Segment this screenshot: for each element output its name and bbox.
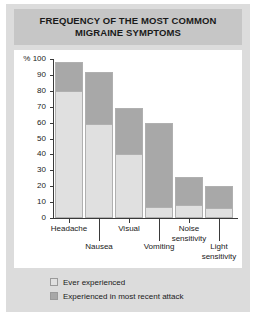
y-axis-tick-mark xyxy=(50,123,53,124)
x-axis-tick-mark xyxy=(189,219,190,223)
bar-segment-most-recent-attack xyxy=(55,62,83,91)
y-axis-tick-mark xyxy=(50,59,53,60)
x-axis-label-line: Visual xyxy=(99,224,159,234)
y-axis-tick-label: 70 xyxy=(37,102,46,112)
x-axis-label-line: Light xyxy=(189,242,249,252)
y-axis-tick-mark xyxy=(50,107,53,108)
y-axis-tick-label: 10 xyxy=(37,197,46,207)
bar-segment-ever-experienced xyxy=(85,124,113,218)
chart-legend: Ever experiencedExperienced in most rece… xyxy=(50,276,184,304)
y-axis-tick-mark xyxy=(50,202,53,203)
y-axis-tick-mark xyxy=(50,75,53,76)
bar-vomiting[interactable] xyxy=(145,123,173,218)
x-axis-tick-mark xyxy=(99,219,100,241)
x-axis-label-headache: Headache xyxy=(39,224,99,234)
legend-swatch-icon xyxy=(50,278,58,286)
x-axis-tick-mark xyxy=(219,219,220,241)
bar-noise-sensitivity[interactable] xyxy=(175,177,203,218)
x-axis-tick-mark xyxy=(159,219,160,241)
bar-segment-most-recent-attack xyxy=(175,177,203,206)
title-line-2: MIGRAINE SYMPTOMS xyxy=(40,27,217,40)
bar-visual[interactable] xyxy=(115,108,143,218)
x-axis-label-line: Noise xyxy=(159,224,219,234)
x-axis-label-noise: Noisesensitivity xyxy=(159,224,219,243)
legend-swatch-icon xyxy=(50,292,58,300)
bar-segment-most-recent-attack xyxy=(205,186,233,208)
y-axis-tick-label: 50 xyxy=(37,134,46,144)
chart-figure: FREQUENCY OF THE MOST COMMON MIGRAINE SY… xyxy=(6,4,250,312)
bar-headache[interactable] xyxy=(55,62,83,218)
bar-segment-most-recent-attack xyxy=(115,108,143,154)
bar-segment-ever-experienced xyxy=(145,207,173,218)
chart-title-band: FREQUENCY OF THE MOST COMMON MIGRAINE SY… xyxy=(14,9,242,45)
legend-item[interactable]: Ever experienced xyxy=(50,276,184,288)
bar-segment-most-recent-attack xyxy=(145,123,173,207)
bar-segment-ever-experienced xyxy=(205,208,233,218)
bar-light-sensitivity[interactable] xyxy=(205,186,233,218)
bar-series-group xyxy=(55,59,238,218)
x-axis-tick-mark xyxy=(69,219,70,223)
y-axis-line xyxy=(53,59,54,219)
x-axis-label-line: Nausea xyxy=(69,242,129,252)
y-axis-tick-label: 0 xyxy=(42,213,46,223)
title-line-1: FREQUENCY OF THE MOST COMMON xyxy=(40,15,217,28)
y-axis-tick-label: 80 xyxy=(37,86,46,96)
bar-segment-most-recent-attack xyxy=(85,72,113,124)
y-axis: % 1009080706050403020100 xyxy=(14,50,50,268)
page-title: FREQUENCY OF THE MOST COMMON MIGRAINE SY… xyxy=(40,15,217,40)
x-axis-label-vomiting: Vomiting xyxy=(129,242,189,252)
y-axis-tick-label: 40 xyxy=(37,149,46,159)
x-axis-label-line: sensitivity xyxy=(189,252,249,262)
plot-area: % 1009080706050403020100 HeadacheNauseaV… xyxy=(14,50,242,268)
x-axis-label-light: Lightsensitivity xyxy=(189,242,249,261)
bar-segment-ever-experienced xyxy=(55,91,83,218)
y-axis-tick-label: 60 xyxy=(37,118,46,128)
y-axis-tick-mark xyxy=(50,139,53,140)
y-axis-tick-label: 90 xyxy=(37,70,46,80)
x-axis-line xyxy=(53,218,238,219)
y-axis-tick-mark xyxy=(50,154,53,155)
y-axis-tick-mark xyxy=(50,91,53,92)
y-axis-tick-mark xyxy=(50,186,53,187)
bar-segment-ever-experienced xyxy=(115,154,143,218)
y-axis-tick-label: % 100 xyxy=(23,54,46,64)
x-axis-label-nausea: Nausea xyxy=(69,242,129,252)
legend-item-label: Ever experienced xyxy=(63,278,125,287)
bar-segment-ever-experienced xyxy=(175,205,203,218)
y-axis-tick-label: 20 xyxy=(37,181,46,191)
y-axis-tick-label: 30 xyxy=(37,165,46,175)
x-axis-label-line: Vomiting xyxy=(129,242,189,252)
legend-item[interactable]: Experienced in most recent attack xyxy=(50,290,184,302)
x-axis-label-visual: Visual xyxy=(99,224,159,234)
x-axis-tick-mark xyxy=(129,219,130,223)
y-axis-tick-mark xyxy=(50,170,53,171)
bar-nausea[interactable] xyxy=(85,72,113,218)
x-axis-label-line: Headache xyxy=(39,224,99,234)
legend-item-label: Experienced in most recent attack xyxy=(63,292,184,301)
y-axis-tick-mark xyxy=(50,218,53,219)
